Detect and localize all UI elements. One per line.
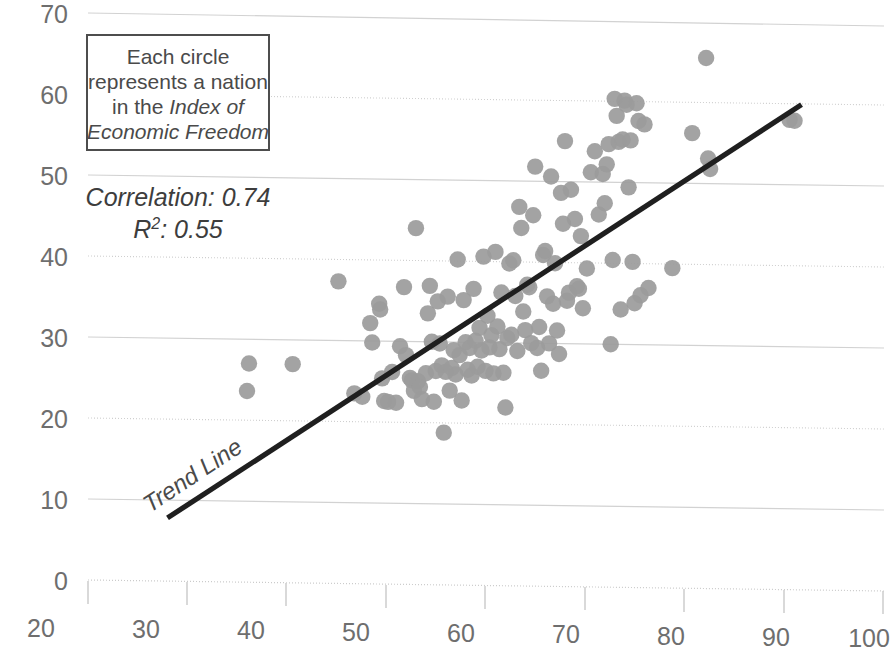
gridline-10 [88,499,884,510]
r-squared-label: R2: 0.55 [133,215,223,243]
data-point [624,254,640,270]
data-point [330,273,346,289]
gridline-20 [88,418,884,429]
gridline-70 [88,13,884,26]
data-point [449,251,465,267]
data-point [605,252,621,268]
data-point [372,301,388,317]
data-point [525,207,541,223]
data-point [549,322,565,338]
data-point [603,336,619,352]
data-point [587,143,603,159]
data-point [531,319,547,335]
data-point [599,156,615,172]
data-point [241,355,257,371]
data-point [239,383,255,399]
data-point [408,220,424,236]
correlation-label: Correlation: 0.74 [86,183,271,211]
data-point [684,125,700,141]
ytick-label-60: 60 [40,81,68,109]
x-axis-labels: 20 30 40 50 60 70 80 90 100 [27,614,890,652]
data-point [664,260,680,276]
xtick-label-70: 70 [552,620,580,648]
data-point [396,279,412,295]
data-point [509,343,525,359]
r-squared-superscript: 2 [150,215,160,232]
data-point [636,116,652,132]
data-point [503,327,519,343]
data-point [579,260,595,276]
data-point [436,424,452,440]
data-point [543,168,559,184]
data-point [422,278,438,294]
callout-line-3-plain: in the [112,95,169,118]
xtick-label-60: 60 [447,619,475,647]
data-point [453,392,469,408]
data-point [597,195,613,211]
y-axis-labels: 70 60 50 40 30 20 10 0 [40,0,68,595]
callout-line-3: in the Index of [112,95,246,118]
ytick-label-50: 50 [40,162,68,190]
callout-line-4: Economic Freedom [87,120,269,143]
callout-line-3-italic: Index of [169,95,246,118]
data-point [487,244,503,260]
data-point [505,252,521,268]
data-point [571,281,587,297]
ytick-label-70: 70 [40,0,68,28]
data-point [567,211,583,227]
data-point [388,395,404,411]
ytick-label-20: 20 [40,405,68,433]
r-squared-value: : 0.55 [160,215,223,243]
data-point [551,346,567,362]
gridline-0 [88,580,884,591]
xtick-label-40: 40 [237,616,265,644]
ytick-label-40: 40 [40,243,68,271]
callout-line-2: represents a nation [88,70,268,93]
scatter-chart: 70 60 50 40 30 20 10 0 20 30 40 50 60 70… [0,0,892,664]
x-axis-tickmarks [88,581,883,614]
data-point [575,300,591,316]
data-point [513,220,529,236]
data-point [620,179,636,195]
data-point [426,394,442,410]
stats-annotation: Correlation: 0.74 R2: 0.55 [86,183,271,243]
data-point [515,303,531,319]
data-point [362,315,378,331]
xtick-label-90: 90 [762,623,790,651]
xtick-label-20: 20 [27,614,55,642]
data-point [285,356,301,372]
data-point [495,365,511,381]
data-point [563,182,579,198]
data-point [497,399,513,415]
chart-canvas: 70 60 50 40 30 20 10 0 20 30 40 50 60 70… [0,0,892,664]
data-points-layer [239,50,803,441]
data-point [622,132,638,148]
xtick-label-50: 50 [342,618,370,646]
xtick-label-80: 80 [657,622,685,650]
xtick-label-30: 30 [132,615,160,643]
ytick-label-10: 10 [40,486,68,514]
data-point [628,95,644,111]
callout-annotation: Each circle represents a nation in the I… [87,35,269,150]
data-point [440,288,456,304]
data-point [545,296,561,312]
data-point [527,158,543,174]
xtick-label-100: 100 [848,624,890,652]
data-point [364,334,380,350]
data-point [698,50,714,66]
data-point [465,281,481,297]
data-point [557,133,573,149]
ytick-label-30: 30 [40,324,68,352]
callout-line-1: Each circle [127,45,230,68]
data-point [533,363,549,379]
ytick-label-0: 0 [54,567,68,595]
data-point [511,199,527,215]
trend-line [168,105,802,518]
r-squared-prefix: R [133,215,151,243]
data-point [640,280,656,296]
